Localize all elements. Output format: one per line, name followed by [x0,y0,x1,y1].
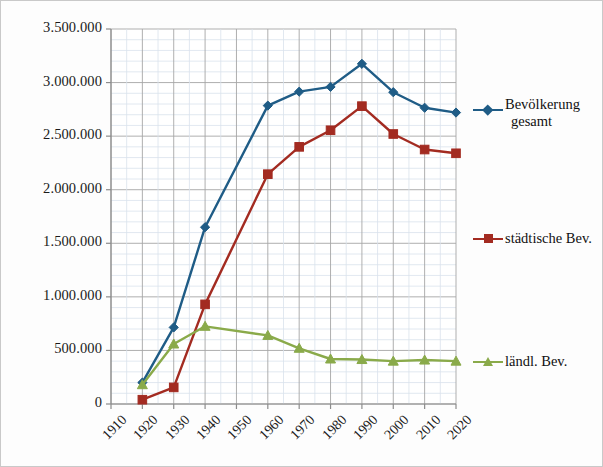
data-point-marker [452,149,461,158]
data-point-marker [201,300,210,309]
data-point-marker [264,170,273,179]
y-axis-tick-label: 1.000.000 [43,287,102,304]
y-axis-tick-label: 0 [95,394,102,411]
data-point-marker [358,102,367,111]
data-point-marker [326,126,335,135]
legend-label-continued: gesamt [511,113,580,130]
legend-label: städtische Bev. [505,230,592,247]
legend-marker-square-icon [473,233,503,245]
y-axis-tick-label: 2.500.000 [43,126,102,143]
population-line-chart: 0500.0001.000.0001.500.0002.000.0002.500… [1,1,603,467]
y-axis-tick-label: 500.000 [54,340,102,357]
y-axis-tick-label: 2.000.000 [43,180,102,197]
legend-label: ländl. Bev. [505,353,567,370]
legend-item[interactable]: städtische Bev. [473,229,592,247]
chart-frame: 0500.0001.000.0001.500.0002.000.0002.500… [0,0,603,467]
y-axis-tick-label: 3.000.000 [43,73,102,90]
y-axis-tick-label: 3.500.000 [43,19,102,36]
legend-marker-triangle-icon [473,356,503,368]
data-point-marker [169,383,178,392]
legend-label: Bevölkerung [505,96,580,113]
legend-marker-diamond-icon [473,104,503,116]
legend-item[interactable]: Bevölkerunggesamt [473,100,580,134]
data-point-marker [295,143,304,152]
data-point-marker [138,395,147,404]
y-axis-tick-label: 1.500.000 [43,233,102,250]
legend-item[interactable]: ländl. Bev. [473,352,567,370]
data-point-marker [389,130,398,139]
data-point-marker [420,145,429,154]
